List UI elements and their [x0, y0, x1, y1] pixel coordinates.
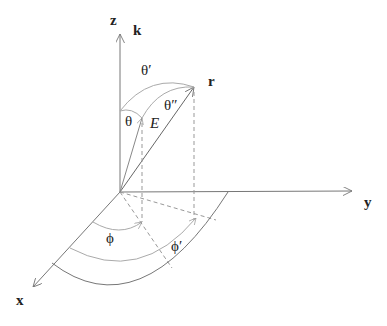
e-vector	[120, 118, 142, 192]
y-label: y	[364, 194, 372, 210]
outer-arc	[52, 192, 228, 285]
y-axis	[120, 191, 352, 192]
k-label: k	[133, 22, 142, 38]
phi-prime-label: ϕ′	[171, 238, 182, 254]
x-label: x	[16, 292, 24, 308]
theta-label: θ	[125, 113, 132, 129]
r-label: r	[208, 73, 215, 89]
theta-double-prime-label: θ″	[164, 97, 177, 113]
coordinate-diagram: z k y x r E θ θ′ θ″ ϕ ϕ′	[0, 0, 387, 326]
phi-arc	[93, 222, 142, 230]
r-vector	[120, 87, 194, 192]
r-projection-horizontal	[120, 192, 216, 220]
z-label: z	[110, 12, 117, 28]
phi-label: ϕ	[106, 230, 114, 246]
theta-prime-label: θ′	[141, 62, 151, 78]
e-label: E	[149, 115, 159, 131]
